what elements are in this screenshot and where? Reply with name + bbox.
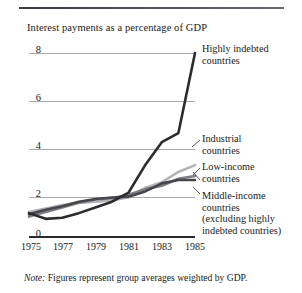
legend-industrial-line2: countries [202, 145, 241, 157]
line-highly-indebted-countries [29, 53, 195, 219]
legend-middle-income-line3: (excluding highly [202, 213, 281, 225]
legend-middle-income-line1: Middle-income [202, 190, 281, 202]
x-tick-1983: 1983 [147, 241, 177, 252]
legend-industrial-line1: Industrial [202, 133, 241, 145]
note-label: Note: [24, 272, 45, 283]
legend-highly-indebted-line1: Highly indebted [202, 43, 269, 55]
top-divider-rule [19, 7, 284, 9]
legend-industrial: Industrial countries [202, 133, 241, 156]
series-lines [29, 44, 195, 238]
legend-low-income-line2: countries [202, 173, 255, 185]
plot-area [29, 44, 195, 238]
legend-middle-income-line2: countries [202, 202, 281, 214]
legend-middle-income: Middle-income countries (excluding highl… [202, 190, 281, 236]
x-tick-1985: 1985 [180, 241, 210, 252]
legend-low-income: Low-income countries [202, 161, 255, 184]
x-tick-1975: 1975 [16, 241, 46, 252]
legend-highly-indebted-line2: countries [202, 55, 269, 67]
chart-title: Interest payments as a percentage of GDP [27, 22, 207, 33]
chart-note: Note: Figures represent group averages w… [24, 272, 247, 283]
note-text: Figures represent group averages weighte… [45, 272, 247, 283]
legend-middle-income-line4: indebted countries) [202, 225, 281, 237]
x-tick-1979: 1979 [81, 241, 111, 252]
line-industrial-countries [29, 165, 195, 212]
x-tick-1977: 1977 [48, 241, 78, 252]
legend-highly-indebted: Highly indebted countries [202, 43, 269, 66]
line-middle-income-countries [29, 180, 195, 214]
legend-low-income-line1: Low-income [202, 161, 255, 173]
x-tick-1981: 1981 [114, 241, 144, 252]
